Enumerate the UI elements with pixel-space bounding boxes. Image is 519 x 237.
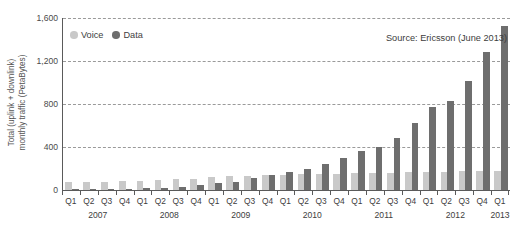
bar-series-container [63, 18, 510, 190]
bar-group [438, 18, 456, 190]
bar-group [99, 18, 117, 190]
tick-mark [508, 191, 509, 195]
bar-voice [262, 175, 269, 190]
bar-group [278, 18, 296, 190]
bar-group [456, 18, 474, 190]
bar-group [152, 18, 170, 190]
x-axis-quarter-label: Q2 [294, 196, 312, 210]
tick-mark [420, 191, 421, 195]
bar-voice [190, 179, 197, 190]
y-axis-tick-label: 1,600 [36, 13, 58, 23]
x-axis-quarter-label: Q2 [151, 196, 169, 210]
bar-voice [280, 175, 287, 190]
bar-voice [369, 173, 376, 190]
bar-data [429, 107, 436, 190]
bar-group [81, 18, 99, 190]
x-axis-quarter-label: Q3 [312, 196, 330, 210]
x-axis-quarter-label: Q4 [259, 196, 277, 210]
bar-group [492, 18, 510, 190]
bar-voice [405, 172, 412, 190]
bar-voice [441, 172, 448, 190]
legend-item-data: Data [112, 30, 142, 40]
bar-group [170, 18, 188, 190]
x-axis-quarter-label: Q4 [116, 196, 134, 210]
bar-voice [119, 181, 126, 190]
bar-group [349, 18, 367, 190]
x-axis-quarter-label: Q2 [80, 196, 98, 210]
tick-mark [491, 191, 492, 195]
y-axis-title: Total (uplink + downlink) monthly traffi… [7, 23, 28, 183]
tick-mark [187, 191, 188, 195]
bar-data [197, 185, 204, 190]
tick-mark [473, 191, 474, 195]
tick-mark [241, 191, 242, 195]
bar-group [474, 18, 492, 190]
bar-data [394, 138, 401, 190]
tick-mark [205, 191, 206, 195]
bar-data [126, 189, 133, 191]
tick-mark [294, 191, 295, 195]
x-axis-quarter-label: Q3 [384, 196, 402, 210]
bar-voice [226, 176, 233, 190]
chart-figure: Total (uplink + downlink) monthly traffi… [0, 0, 519, 237]
x-axis-year-label: 2010 [303, 210, 322, 220]
bar-voice [208, 177, 215, 190]
x-axis-quarter-labels: Q1Q2Q3Q4Q1Q2Q3Q4Q1Q2Q3Q4Q1Q2Q3Q4Q1Q2Q3Q4… [62, 196, 509, 210]
legend-label-data: Data [123, 30, 142, 40]
x-axis-quarter-label: Q1 [420, 196, 438, 210]
tick-mark [312, 191, 313, 195]
x-axis-quarter-label: Q2 [437, 196, 455, 210]
tick-mark [116, 191, 117, 195]
tick-mark [134, 191, 135, 195]
bar-voice [101, 182, 108, 190]
bar-data [108, 189, 115, 190]
tick-mark [223, 191, 224, 195]
x-axis-year-label: 2012 [446, 210, 465, 220]
bar-voice [65, 182, 72, 190]
bar-group [63, 18, 81, 190]
x-axis-quarter-label: Q4 [402, 196, 420, 210]
bar-data [412, 123, 419, 190]
circle-icon-data [112, 31, 120, 39]
bar-group [224, 18, 242, 190]
x-axis-year-label: 2007 [88, 210, 107, 220]
tick-mark [259, 191, 260, 195]
x-axis-year-label: 2009 [231, 210, 250, 220]
y-axis-tick-labels: 04008001,2001,600 [26, 0, 58, 200]
tick-mark [277, 191, 278, 195]
bar-data [143, 188, 150, 190]
bar-group [260, 18, 278, 190]
bar-group [331, 18, 349, 190]
bar-group [385, 18, 403, 190]
tick-mark [455, 191, 456, 195]
tick-mark [80, 191, 81, 195]
bar-voice [173, 179, 180, 190]
bar-group [295, 18, 313, 190]
legend-label-voice: Voice [81, 30, 103, 40]
bar-data [322, 164, 329, 190]
x-axis-quarter-label: Q2 [223, 196, 241, 210]
bar-data [215, 183, 222, 190]
bar-data [251, 178, 258, 190]
bar-data [501, 26, 508, 190]
x-axis-quarter-label: Q4 [473, 196, 491, 210]
y-axis-tick-label: 400 [44, 142, 58, 152]
x-axis-year-label: 2011 [375, 210, 393, 220]
y-axis-tick-label: 0 [53, 185, 58, 195]
bar-data [304, 169, 311, 190]
tick-mark [330, 191, 331, 195]
x-axis-quarter-label: Q1 [277, 196, 295, 210]
tick-mark [384, 191, 385, 195]
bar-data [358, 151, 365, 190]
bar-voice [155, 180, 162, 190]
x-axis-quarter-label: Q1 [205, 196, 223, 210]
bar-voice [476, 171, 483, 190]
bar-data [286, 172, 293, 190]
bar-group [188, 18, 206, 190]
bar-voice [387, 173, 394, 190]
x-axis-quarter-label: Q1 [134, 196, 152, 210]
x-axis-year-label: 2013 [490, 210, 509, 220]
bar-voice [423, 172, 430, 190]
bar-voice [316, 174, 323, 190]
bar-group [135, 18, 153, 190]
